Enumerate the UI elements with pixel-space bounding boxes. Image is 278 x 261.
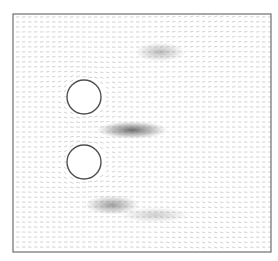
upper-cylinder <box>67 80 101 114</box>
vector-field-plot <box>0 0 278 261</box>
flow-field-figure <box>0 0 278 261</box>
lower-cylinder <box>67 145 101 179</box>
lower-right-band <box>120 207 190 223</box>
upper-shear-layer <box>134 42 186 62</box>
center-wake <box>96 121 168 139</box>
